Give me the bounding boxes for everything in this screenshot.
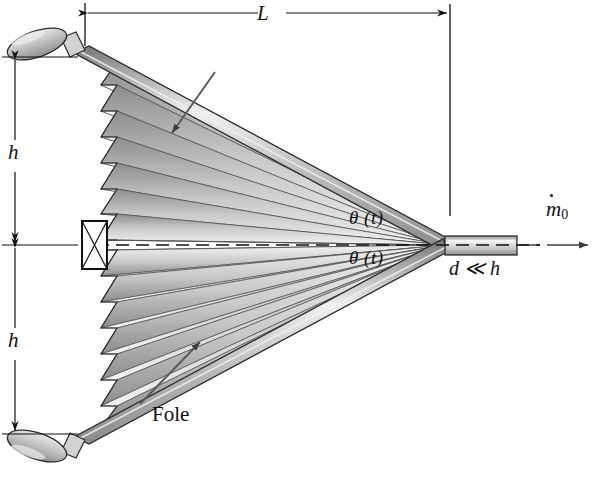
label-gap-condition: d ≪ h: [449, 258, 500, 278]
label-height-lower: h: [8, 330, 19, 351]
label-bellows-callout: Fole: [152, 404, 189, 425]
pivot-box: [82, 221, 107, 269]
upper-knob: [3, 22, 70, 67]
label-theta-lower: θ (t): [349, 248, 384, 267]
label-theta-upper: θ (t): [349, 208, 384, 227]
mass-flow-subscript: 0: [561, 207, 568, 222]
bellows-diagram: L h h θ (t) θ (t) d ≪ h Fole m 0: [0, 0, 593, 488]
label-length-L: L: [257, 3, 269, 24]
mass-flow-letter: m: [546, 197, 561, 221]
diagram-canvas: [0, 0, 593, 488]
overdot-icon: [550, 194, 553, 197]
label-height-upper: h: [8, 142, 19, 163]
mass-flow-symbol: m: [546, 199, 561, 220]
height-dimensions: [2, 57, 78, 434]
label-mass-flow: m 0: [546, 199, 568, 222]
lower-knob: [3, 424, 70, 469]
